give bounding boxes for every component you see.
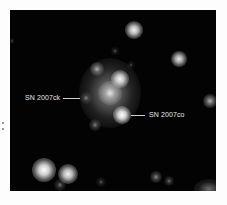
galaxy-core [98,81,122,105]
star-small-mid [127,61,135,69]
sn-2007co-label: SN 2007co [149,111,185,119]
sn-2007co [113,106,131,124]
sn-2007ck [80,92,92,104]
star-bottom-faint [54,179,66,191]
star-bottom-right-2 [164,176,174,186]
star-right-edge [203,94,216,108]
star-top [125,21,143,39]
edge-mark-lower [2,128,4,130]
corner-glow [194,179,216,191]
star-galaxy-left [90,62,104,76]
star-upper-right [171,51,187,67]
star-upper-left [111,47,119,55]
sn-2007co-pointer-line [131,115,145,116]
star-bottom-bright [32,158,56,182]
star-bottom-right-1 [150,171,162,183]
star-bottom-small [96,177,106,187]
edge-mark-upper [2,122,4,124]
star-left-edge [10,38,15,44]
star-lower-left [89,119,101,131]
sn-2007ck-pointer-line [63,98,80,99]
sn-2007ck-label: SN 2007ck [25,94,60,102]
astronomical-image: SN 2007ck SN 2007co [10,10,216,191]
